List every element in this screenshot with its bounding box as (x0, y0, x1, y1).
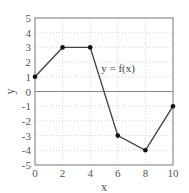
x-tick-label: 4 (87, 167, 93, 179)
y-tick-label: 1 (26, 71, 32, 83)
y-tick-label: -2 (22, 115, 31, 127)
y-tick-label: 2 (26, 56, 32, 68)
data-point-marker (171, 104, 176, 109)
data-point-marker (116, 133, 121, 138)
y-tick-label: 5 (26, 12, 32, 24)
x-tick-label: 10 (168, 167, 180, 179)
y-axis-ticks: -5-4-3-2-1012345 (22, 12, 32, 171)
y-tick-label: 0 (26, 86, 32, 98)
data-point-marker (143, 148, 148, 153)
y-tick-label: -5 (22, 159, 32, 171)
y-axis-label: y (3, 89, 17, 95)
x-tick-label: 6 (115, 167, 121, 179)
x-axis-label: x (101, 180, 107, 193)
y-tick-label: -4 (22, 144, 32, 156)
data-point-marker (60, 45, 65, 50)
data-point-marker (33, 75, 38, 80)
function-label: y = f(x) (101, 62, 135, 75)
x-tick-label: 2 (60, 167, 66, 179)
x-tick-label: 8 (143, 167, 149, 179)
data-point-marker (88, 45, 93, 50)
x-axis-ticks: 0246810 (32, 167, 179, 179)
y-tick-label: 4 (26, 27, 32, 39)
x-tick-label: 0 (32, 167, 38, 179)
y-tick-label: 3 (26, 41, 32, 53)
function-plot: -5-4-3-2-1012345 0246810 y = f(x) x y (0, 0, 189, 193)
y-tick-label: -3 (22, 130, 32, 142)
y-tick-label: -1 (22, 100, 31, 112)
